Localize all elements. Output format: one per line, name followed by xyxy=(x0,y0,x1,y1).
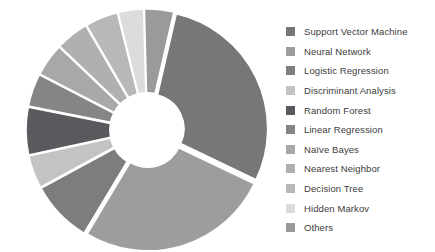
legend-item-label: Others xyxy=(304,222,333,233)
legend-item-label: Nearest Neighbor xyxy=(304,163,380,174)
legend-swatch-icon xyxy=(286,47,295,56)
legend-item-label: Discriminant Analysis xyxy=(304,85,396,96)
legend-swatch-icon xyxy=(286,204,295,213)
legend-swatch-icon xyxy=(286,27,295,36)
legend-item-label: Support Vector Machine xyxy=(304,26,408,37)
legend-swatch-icon xyxy=(286,164,295,173)
legend-item-label: Neural Network xyxy=(304,46,371,57)
legend-swatch-icon xyxy=(286,125,295,134)
legend-swatch-icon xyxy=(286,106,295,115)
legend-item[interactable]: Support Vector Machine xyxy=(286,22,435,42)
legend-swatch-icon xyxy=(286,184,295,193)
legend-swatch-icon xyxy=(286,66,295,75)
legend-item[interactable]: Nearest Neighbor xyxy=(286,159,435,179)
pie-chart-figure: Support Vector MachineNeural NetworkLogi… xyxy=(0,0,435,252)
legend-item-label: Decision Tree xyxy=(304,183,363,194)
legend-item[interactable]: Linear Regression xyxy=(286,120,435,140)
legend-item-label: Hidden Markov xyxy=(304,203,369,214)
legend-item[interactable]: Discriminant Analysis xyxy=(286,81,435,101)
legend-item[interactable]: Naïve Bayes xyxy=(286,140,435,160)
chart-legend: Support Vector MachineNeural NetworkLogi… xyxy=(286,22,435,238)
slice-group xyxy=(26,9,268,251)
legend-swatch-icon xyxy=(286,145,295,154)
legend-item[interactable]: Neural Network xyxy=(286,42,435,62)
legend-swatch-icon xyxy=(286,223,295,232)
legend-item[interactable]: Random Forest xyxy=(286,100,435,120)
legend-item-label: Naïve Bayes xyxy=(304,144,359,155)
legend-item[interactable]: Logistic Regression xyxy=(286,61,435,81)
legend-item[interactable]: Others xyxy=(286,218,435,238)
donut-chart-svg xyxy=(0,0,268,252)
legend-item-label: Random Forest xyxy=(304,105,371,116)
legend-item-label: Logistic Regression xyxy=(304,65,389,76)
legend-item-label: Linear Regression xyxy=(304,124,383,135)
legend-swatch-icon xyxy=(286,86,295,95)
legend-item[interactable]: Decision Tree xyxy=(286,179,435,199)
legend-item[interactable]: Hidden Markov xyxy=(286,198,435,218)
donut-chart-plot xyxy=(0,0,268,252)
